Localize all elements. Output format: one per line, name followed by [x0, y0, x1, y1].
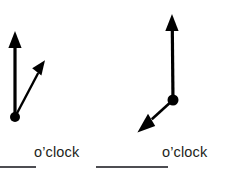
clock-1-hour-hand	[8, 31, 21, 117]
answer-blank-1[interactable]	[0, 166, 36, 168]
worksheet-page: o’clock o’clock	[0, 0, 235, 182]
clock-1-pivot-dot	[10, 112, 20, 122]
clock-2-hour-hand	[165, 14, 178, 100]
clock-2-pivot-dot	[168, 95, 179, 106]
oclock-label-1: o’clock	[34, 145, 79, 160]
oclock-label-2: o’clock	[162, 145, 207, 160]
clock-2-minute-hand	[137, 100, 173, 133]
answer-blank-2[interactable]	[96, 166, 168, 168]
clock-diagram-2	[137, 14, 178, 133]
clock-diagram-1	[8, 31, 45, 122]
clock-1-minute-hand	[15, 60, 45, 117]
